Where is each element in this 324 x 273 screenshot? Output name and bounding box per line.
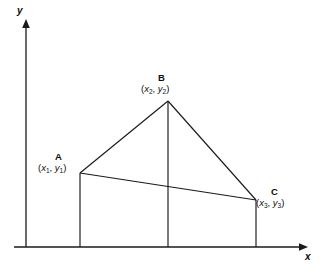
x-axis-label: x (305, 252, 311, 262)
x-subscript: 2 (149, 88, 153, 95)
paren-close: ) (63, 162, 66, 173)
x-subscript: 1 (46, 167, 50, 174)
geometry-figure: y x A (x1, y1) B (x2, y2) C (x3, y3) (0, 0, 324, 273)
y-subscript: 2 (163, 88, 167, 95)
point-a-letter: A (55, 152, 62, 162)
figure-canvas (0, 0, 324, 273)
segment-ab (80, 101, 168, 173)
y-variable: y (158, 83, 163, 94)
arrow-up-icon (22, 19, 30, 28)
paren-close: ) (281, 197, 284, 208)
y-variable: y (273, 197, 278, 208)
y-subscript: 3 (278, 202, 282, 209)
arrow-right-icon (299, 243, 308, 251)
paren-close: ) (166, 83, 169, 94)
x-subscript: 3 (264, 202, 268, 209)
y-subscript: 1 (60, 167, 64, 174)
y-axis-label: y (17, 6, 23, 16)
point-b-letter: B (158, 73, 165, 83)
y-variable: y (55, 162, 60, 173)
point-b-coordinates: (x2, y2) (141, 84, 169, 94)
point-a-coordinates: (x1, y1) (38, 163, 66, 173)
point-c-coordinates: (x3, y3) (256, 198, 284, 208)
segment-bc (168, 101, 256, 200)
point-c-letter: C (271, 187, 278, 197)
